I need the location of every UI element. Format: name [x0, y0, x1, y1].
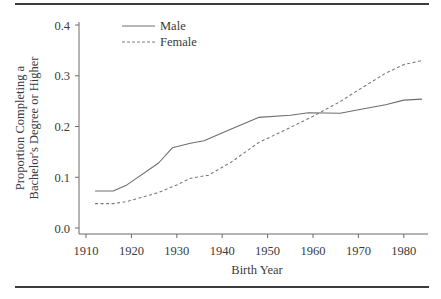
x-tick-label: 1940 [210, 244, 235, 258]
line-chart: 0.00.10.20.30.4 191019201930194019501960… [0, 0, 441, 299]
x-tick-label: 1980 [391, 244, 416, 258]
y-tick-label: 0.2 [54, 120, 70, 134]
y-tick-label: 0.3 [54, 69, 70, 83]
legend: Male Female [122, 19, 197, 49]
y-axis-title-line-2: Bachelor's Degree or Higher [27, 56, 41, 200]
legend-female-label: Female [160, 35, 197, 49]
x-axis: 19101920193019401950196019701980 [74, 234, 429, 258]
legend-male-label: Male [160, 19, 186, 33]
series-female-line [95, 61, 422, 204]
series-male-line [95, 99, 422, 191]
x-axis-title: Birth Year [231, 263, 283, 277]
y-tick-label: 0.0 [54, 222, 70, 236]
x-tick-label: 1960 [301, 244, 326, 258]
x-tick-label: 1910 [74, 244, 99, 258]
y-tick-label: 0.4 [54, 19, 70, 33]
y-axis-title: Proportion Completing a Bachelor's Degre… [13, 56, 41, 200]
x-tick-label: 1920 [119, 244, 144, 258]
y-tick-label: 0.1 [54, 171, 70, 185]
y-axis: 0.00.10.20.30.4 [54, 19, 79, 236]
x-tick-label: 1950 [255, 244, 280, 258]
x-tick-label: 1930 [164, 244, 189, 258]
x-tick-label: 1970 [346, 244, 371, 258]
y-axis-title-line-1: Proportion Completing a [13, 65, 27, 190]
series-layer [95, 61, 422, 204]
